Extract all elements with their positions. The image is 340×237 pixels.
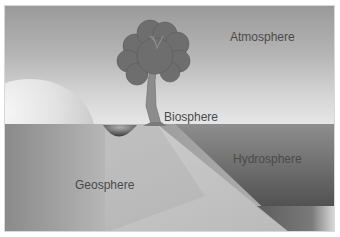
label-hydrosphere: Hydrosphere — [233, 152, 302, 166]
label-atmosphere: Atmosphere — [230, 30, 295, 44]
diagram-frame: Atmosphere Biosphere Hydrosphere Geosphe… — [4, 5, 335, 232]
label-biosphere: Biosphere — [164, 110, 218, 124]
label-geosphere: Geosphere — [75, 178, 134, 192]
